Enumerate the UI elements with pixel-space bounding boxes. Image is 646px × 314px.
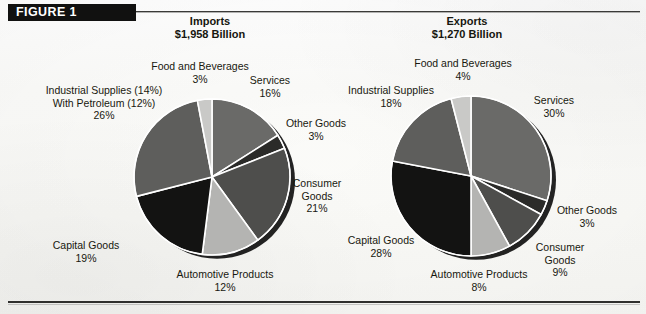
label-name: Services: [525, 94, 583, 107]
label-percent: 8%: [420, 281, 538, 294]
label-name-line2: Goods: [529, 254, 591, 267]
label-name: Automotive Products: [420, 268, 538, 281]
imports-label-industrial-supplies: Industrial Supplies (14%) With Petroleum…: [38, 84, 170, 122]
imports-subtitle-text: $1,958 Billion: [150, 28, 270, 41]
imports-label-consumer-goods: Consumer Goods 21%: [288, 177, 346, 215]
exports-label-industrial-supplies: Industrial Supplies 18%: [341, 84, 441, 109]
label-name: Automotive Products: [166, 268, 284, 281]
label-percent: 16%: [243, 87, 297, 100]
label-name-line2: With Petroleum (12%): [38, 97, 170, 110]
exports-title-text: Exports: [407, 15, 527, 28]
label-percent: 18%: [341, 97, 441, 110]
exports-chart-title: Exports $1,270 Billion: [407, 15, 527, 41]
imports-label-capital-goods: Capital Goods 19%: [44, 239, 128, 264]
label-name-line1: Consumer: [288, 177, 346, 190]
exports-label-automotive-products: Automotive Products 8%: [420, 268, 538, 293]
label-name: Other Goods: [551, 204, 623, 217]
label-percent: 4%: [404, 70, 522, 83]
exports-label-other-goods: Other Goods 3%: [551, 204, 623, 229]
label-percent: 3%: [551, 217, 623, 230]
label-percent: 30%: [525, 107, 583, 120]
label-name: Capital Goods: [339, 234, 423, 247]
imports-title-text: Imports: [150, 15, 270, 28]
label-name-line1: Consumer: [529, 241, 591, 254]
label-name: Food and Beverages: [145, 60, 255, 73]
label-percent: 9%: [529, 266, 591, 279]
label-name: Capital Goods: [44, 239, 128, 252]
label-name: Industrial Supplies: [341, 84, 441, 97]
figure-number-label: FIGURE 1: [8, 6, 77, 19]
imports-chart-title: Imports $1,958 Billion: [150, 15, 270, 41]
exports-label-food-and-beverages: Food and Beverages 4%: [404, 57, 522, 82]
imports-label-services: Services 16%: [243, 74, 297, 99]
label-percent: 19%: [44, 252, 128, 265]
label-percent: 3%: [281, 130, 351, 143]
label-name: Food and Beverages: [404, 57, 522, 70]
imports-label-food-and-beverages: Food and Beverages 3%: [145, 60, 255, 85]
figure-page: FIGURE 1 Imports $1,958 Billion Exports …: [0, 0, 646, 314]
exports-label-consumer-goods: Consumer Goods 9%: [529, 241, 591, 279]
label-name: Services: [243, 74, 297, 87]
label-name-line2: Goods: [288, 190, 346, 203]
imports-label-automotive-products: Automotive Products 12%: [166, 268, 284, 293]
exports-label-capital-goods: Capital Goods 28%: [339, 234, 423, 259]
label-percent: 21%: [288, 202, 346, 215]
label-percent: 12%: [166, 281, 284, 294]
imports-label-other-goods: Other Goods 3%: [281, 117, 351, 142]
label-name-line1: Industrial Supplies (14%): [38, 84, 170, 97]
figure-number-banner: FIGURE 1: [8, 4, 136, 21]
label-name: Other Goods: [281, 117, 351, 130]
exports-label-services: Services 30%: [525, 94, 583, 119]
bottom-rule-shadow: [8, 304, 640, 305]
bottom-rule: [8, 301, 640, 303]
exports-subtitle-text: $1,270 Billion: [407, 28, 527, 41]
label-percent: 28%: [339, 247, 423, 260]
label-percent: 26%: [38, 109, 170, 122]
